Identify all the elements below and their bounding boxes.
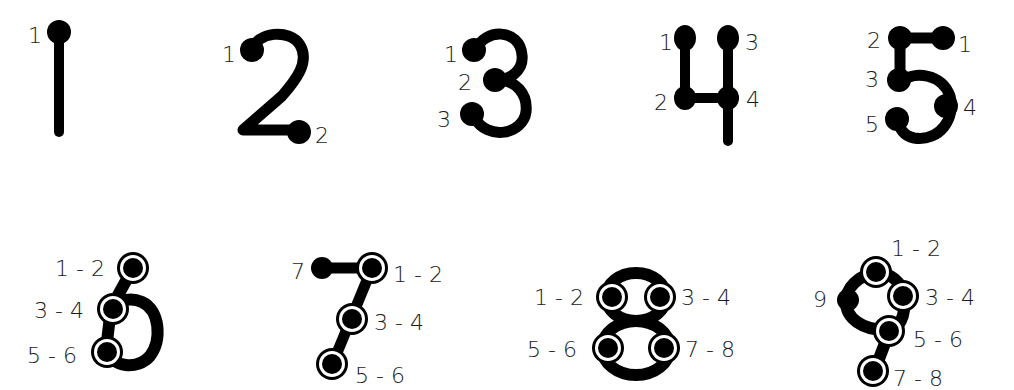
touch-point-label: 1 - 2 [534,285,584,310]
touch-point-dot [885,107,909,131]
touch-point-label: 4 [963,95,977,120]
double-touch-point [648,332,680,364]
double-touch-point [860,256,892,288]
double-touch-point [596,281,628,313]
touch-point-dot [483,68,507,92]
touch-point-label: 3 [865,67,879,92]
touch-point-label: 1 [444,42,458,67]
touch-point-label: 7 - 8 [685,337,735,362]
touch-point-label: 1 - 2 [891,236,941,261]
touch-point-label: 3 - 4 [681,285,731,310]
touch-point-label: 2 [315,123,329,148]
touch-point-dot [240,38,264,62]
touch-point-dot [717,86,739,110]
double-touch-point [857,355,889,387]
touch-point-label: 1 - 2 [55,256,105,281]
touch-point-dot [460,102,484,126]
numeral-5: 2 1 3 4 5 [865,26,977,138]
touch-point-dot [931,26,955,50]
touch-point-label: 3 [437,107,451,132]
touch-point-label: 9 [813,287,827,312]
touch-point-dot [934,94,958,118]
touch-point-label: 2 [654,90,668,115]
touch-point-label: 1 [958,32,972,57]
double-touch-point [356,252,388,284]
touch-point-label: 5 - 6 [913,327,963,352]
numeral-3: 1 2 3 [437,34,526,132]
touch-point-label: 3 - 4 [374,310,424,335]
numeral-6: 1 - 2 3 - 4 5 - 6 [27,252,158,368]
double-touch-point [97,293,129,325]
touch-point-dot [674,86,696,110]
touch-point-label: 4 [746,87,760,112]
touch-point-label: 5 - 6 [355,363,405,388]
numeral-7: 7 1 - 2 3 - 4 5 - 6 [291,252,443,388]
double-touch-point [887,280,919,312]
touch-point-dot [287,120,311,144]
numeral-8: 1 - 2 3 - 4 5 - 6 7 - 8 [527,273,735,375]
touch-point-label: 5 - 6 [527,337,577,362]
touch-point-label: 1 [28,23,42,48]
double-touch-point [91,336,123,368]
numeral-2: 1 2 [222,34,329,148]
touch-point-dot [462,38,486,62]
double-touch-point [592,332,624,364]
touch-point-dot [717,25,739,51]
double-touch-point [873,315,905,347]
numeral-touchpoint-diagram: 1 1 2 1 2 3 1 2 3 4 2 1 [0,0,1014,390]
touch-point-label: 7 [291,259,305,284]
touch-point-label: 7 - 8 [893,366,943,390]
touch-point-label: 3 - 4 [34,298,84,323]
double-touch-point [644,281,676,313]
touch-point-dot [311,257,333,279]
touch-point-label: 2 [458,70,472,95]
touch-point-label: 1 - 2 [393,262,443,287]
double-touch-point [336,303,368,335]
touch-point-dot [887,68,911,92]
touch-point-label: 1 [659,30,673,55]
numeral-9: 1 - 2 9 3 - 4 5 - 6 7 - 8 [813,236,975,390]
double-touch-point [117,252,149,284]
touch-point-dot [888,26,912,50]
touch-point-label: 2 [867,28,881,53]
touch-point-label: 5 - 6 [27,343,77,368]
touch-point-label: 3 [745,30,759,55]
touch-point-label: 1 [222,42,236,67]
double-touch-point [316,348,348,380]
touch-point-dot [837,289,859,311]
touch-point-label: 5 [865,112,879,137]
touch-point-dot [674,25,696,51]
numeral-1: 1 [28,20,71,132]
touch-point-label: 3 - 4 [925,285,975,310]
numeral-4: 1 2 3 4 [654,25,760,141]
touch-point-dot [47,20,71,44]
